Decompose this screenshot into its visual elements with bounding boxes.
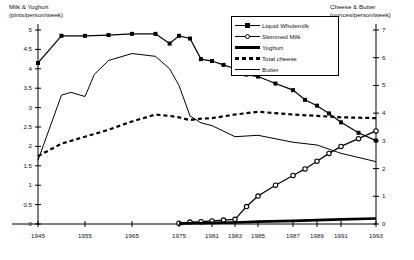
left-axis-tick: 5 — [14, 26, 32, 33]
data-point-marker — [315, 104, 319, 108]
legend-item-skimmed-milk: Skimmed Milk — [232, 31, 338, 42]
data-point-marker — [168, 42, 172, 46]
right-axis-tick: 7 — [382, 26, 400, 33]
right-axis-tick: 5 — [382, 81, 400, 88]
legend-swatch-total-cheese — [232, 53, 262, 64]
data-point-marker — [210, 59, 214, 63]
legend-swatch-butter — [232, 64, 262, 75]
legend-item-butter: Butter — [232, 64, 338, 75]
right-axis-tick: 3 — [382, 137, 400, 144]
left-axis-tick: 2.5 — [14, 123, 32, 130]
legend-label-skimmed-milk: Skimmed Milk — [262, 33, 301, 40]
data-point-marker — [291, 173, 295, 177]
data-point-marker — [374, 129, 378, 133]
data-point-marker — [177, 34, 181, 38]
chart-container: Milk & Yoghurt (pints/person/week) Chees… — [0, 0, 414, 260]
data-point-marker — [256, 194, 260, 198]
right-axis-tick: 2 — [382, 165, 400, 172]
left-axis-tick: 3 — [14, 104, 32, 111]
chart-legend: Liquid Wholemilk Skimmed Milk Yoghurt To… — [231, 16, 339, 76]
x-axis-tick: 1987 — [280, 232, 306, 239]
data-point-marker — [222, 63, 226, 67]
right-axis-tick: 1 — [382, 192, 400, 199]
plot-area — [0, 0, 414, 260]
legend-swatch-yoghurt — [232, 42, 262, 53]
x-axis-tick: 1945 — [25, 232, 51, 239]
data-point-marker — [273, 183, 277, 187]
left-axis-tick: 1 — [14, 181, 32, 188]
data-point-marker — [188, 37, 192, 41]
left-axis-tick: 1.5 — [14, 162, 32, 169]
data-point-marker — [291, 88, 295, 92]
x-axis-tick: 1989 — [304, 232, 330, 239]
data-point-marker — [199, 57, 203, 61]
left-axis-tick: 0.5 — [14, 201, 32, 208]
data-point-marker — [374, 139, 378, 143]
data-point-marker — [83, 34, 87, 38]
data-point-marker — [356, 136, 360, 140]
series-line-total-cheese — [38, 112, 376, 156]
data-point-marker — [154, 32, 158, 36]
series-line-skimmed-milk — [179, 131, 376, 223]
legend-swatch-liquid-wholemilk — [232, 20, 262, 31]
legend-item-liquid-wholemilk: Liquid Wholemilk — [232, 20, 338, 31]
data-point-marker — [274, 82, 278, 86]
left-axis-tick: 4 — [14, 65, 32, 72]
data-point-marker — [303, 98, 307, 102]
x-axis-tick: 1955 — [72, 232, 98, 239]
data-point-marker — [60, 34, 64, 38]
legend-item-total-cheese: Total cheese — [232, 53, 338, 64]
x-axis-tick: 1985 — [245, 232, 271, 239]
x-axis-tick: 1993 — [363, 232, 389, 239]
right-axis-tick: 6 — [382, 54, 400, 61]
right-axis-tick: 0 — [382, 220, 400, 227]
legend-label-yoghurt: Yoghurt — [262, 44, 283, 51]
data-point-marker — [339, 144, 343, 148]
x-axis-tick: 1991 — [328, 232, 354, 239]
data-point-marker — [357, 131, 361, 135]
data-point-marker — [130, 32, 134, 36]
data-point-marker — [244, 204, 248, 208]
data-point-marker — [327, 111, 331, 115]
left-axis-tick: 2 — [14, 142, 32, 149]
data-point-marker — [303, 167, 307, 171]
legend-label-liquid-wholemilk: Liquid Wholemilk — [262, 22, 309, 29]
data-point-marker — [339, 120, 343, 124]
data-point-marker — [327, 151, 331, 155]
x-axis-tick: 1965 — [119, 232, 145, 239]
data-point-marker — [107, 33, 111, 37]
legend-label-total-cheese: Total cheese — [262, 55, 297, 62]
left-axis-tick: 4.5 — [14, 45, 32, 52]
left-axis-tick: 0 — [14, 220, 32, 227]
legend-item-yoghurt: Yoghurt — [232, 42, 338, 53]
data-point-marker — [233, 217, 237, 221]
data-point-marker — [315, 159, 319, 163]
data-point-marker — [36, 61, 40, 65]
left-axis-tick: 3.5 — [14, 84, 32, 91]
legend-swatch-skimmed-milk — [232, 31, 262, 42]
x-axis-tick: 1975 — [166, 232, 192, 239]
legend-label-butter: Butter — [262, 66, 279, 73]
right-axis-tick: 4 — [382, 109, 400, 116]
